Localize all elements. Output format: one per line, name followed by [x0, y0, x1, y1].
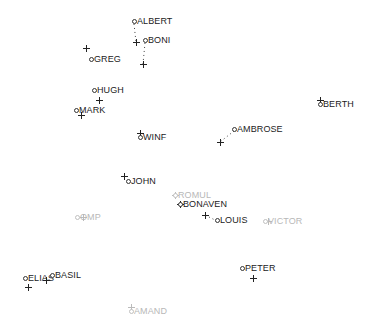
cross-marker-icon — [83, 45, 90, 52]
cross-marker-icon — [140, 61, 147, 68]
point-label: HUGH — [97, 85, 124, 95]
point-label: AMAND — [134, 306, 167, 316]
point-label: PETER — [245, 263, 276, 273]
point-label: ALBERT — [137, 16, 172, 26]
cross-marker-icon — [96, 97, 103, 104]
point-label: BONAVEN — [183, 199, 227, 209]
point-label: MARK — [79, 105, 105, 115]
point-label: AMBROSE — [237, 124, 283, 134]
point-label: BASIL — [55, 270, 81, 280]
point-label: BERTH — [323, 99, 354, 109]
point-label: WINF — [143, 132, 166, 142]
point-label: JOHN — [131, 176, 156, 186]
cross-marker-icon — [217, 139, 224, 146]
point-label: OMP — [80, 212, 101, 222]
point-label: BONI — [148, 35, 170, 45]
cross-marker-icon — [43, 277, 50, 284]
point-label: GREG — [94, 54, 121, 64]
cross-marker-icon — [25, 284, 32, 291]
cross-marker-icon — [202, 212, 209, 219]
point-label: VICTOR — [268, 216, 302, 226]
cross-marker-icon — [133, 39, 140, 46]
cross-marker-icon — [250, 275, 257, 282]
point-label: LOUIS — [220, 215, 248, 225]
